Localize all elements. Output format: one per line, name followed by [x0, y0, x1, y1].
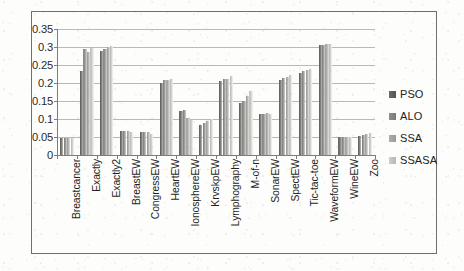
- x-axis-label: Breastcancer: [71, 159, 82, 219]
- x-axis-label: WaveformEW: [329, 159, 340, 222]
- bar-group: [77, 29, 97, 155]
- x-axis-label: KrvskpEW: [210, 159, 221, 207]
- bar: [369, 133, 372, 155]
- legend-label: SSASA: [400, 155, 437, 166]
- plot-area: [57, 29, 375, 155]
- bar-group: [117, 29, 137, 155]
- bar-group: [296, 29, 316, 155]
- y-axis-tick-mark: [54, 47, 58, 48]
- legend-swatch-icon: [389, 91, 396, 98]
- y-axis-tick-label: 0.1: [38, 114, 53, 125]
- y-axis-tick-label: 0.3: [38, 42, 53, 53]
- legend-label: PSO: [400, 89, 424, 100]
- y-axis-tick-mark: [54, 83, 58, 84]
- bar-group: [97, 29, 117, 155]
- bar-group: [156, 29, 176, 155]
- x-axis-label: BreastEW: [131, 159, 142, 205]
- bar: [289, 75, 292, 155]
- bar-group: [57, 29, 77, 155]
- bar-group: [236, 29, 256, 155]
- x-axis-label: Exactly: [91, 159, 102, 192]
- bar: [190, 120, 193, 155]
- bar-group: [256, 29, 276, 155]
- x-axis-label: M-of-n: [250, 159, 261, 188]
- y-axis-tick-label: 0: [47, 150, 53, 161]
- y-axis-tick-labels: 0.350.30.250.20.150.10.050: [8, 29, 53, 155]
- bar: [150, 134, 153, 155]
- bar-group: [216, 29, 236, 155]
- y-axis-tick-label: 0.15: [32, 96, 53, 107]
- bar: [210, 119, 213, 155]
- legend-item-pso[interactable]: PSO: [389, 88, 424, 100]
- x-axis-label: IonosphereEW: [190, 159, 201, 227]
- legend-swatch-icon: [389, 157, 396, 164]
- x-axis-label: Tic-tac-toe: [309, 159, 320, 207]
- legend-label: ALO: [400, 111, 422, 122]
- x-axis-category-labels: BreastcancerExactlyExactly2BreastEWCongr…: [57, 159, 375, 254]
- legend-item-alo[interactable]: ALO: [389, 110, 422, 122]
- y-axis-tick-label: 0.25: [32, 60, 53, 71]
- y-axis-tick-mark: [54, 101, 58, 102]
- bar: [130, 132, 133, 155]
- bar-group: [315, 29, 335, 155]
- bar: [71, 138, 74, 155]
- bar: [349, 137, 352, 155]
- legend-item-ssa[interactable]: SSA: [389, 132, 422, 144]
- bar: [329, 44, 332, 155]
- bar-group: [137, 29, 157, 155]
- x-axis-label: CongressEW: [150, 159, 161, 219]
- y-axis-tick-mark: [54, 119, 58, 120]
- x-axis-label: WineEW: [349, 159, 360, 199]
- bar: [269, 114, 272, 155]
- y-axis-tick-mark: [54, 137, 58, 138]
- legend-swatch-icon: [389, 135, 396, 142]
- x-axis-label: SonarEW: [270, 159, 281, 203]
- x-axis-label: HeartEW: [170, 159, 181, 200]
- y-axis-tick-mark: [54, 65, 58, 66]
- y-axis-tick-label: 0.05: [32, 132, 53, 143]
- y-axis-tick-mark: [54, 29, 58, 30]
- bar: [170, 79, 173, 155]
- x-axis-label: Zoo: [369, 159, 380, 177]
- bar: [90, 48, 93, 155]
- x-axis-label: Exactly2: [111, 159, 122, 197]
- legend-label: SSA: [400, 133, 422, 144]
- bar: [110, 46, 113, 155]
- y-axis-tick-label: 0.35: [32, 24, 53, 35]
- bar: [230, 76, 233, 155]
- bar-group: [276, 29, 296, 155]
- bar-group: [355, 29, 375, 155]
- bar-group: [176, 29, 196, 155]
- x-axis-label: SpectEW: [290, 159, 301, 202]
- bar: [249, 91, 252, 155]
- legend-swatch-icon: [389, 113, 396, 120]
- legend-item-ssasa[interactable]: SSASA: [389, 154, 437, 166]
- bar-group: [196, 29, 216, 155]
- bar: [309, 69, 312, 155]
- bar-group: [335, 29, 355, 155]
- chart-figure: 0.350.30.250.20.150.10.050 BreastcancerE…: [0, 0, 464, 271]
- chart-legend: PSOALOSSASSASA: [389, 88, 459, 166]
- y-axis-tick-label: 0.2: [38, 78, 53, 89]
- x-axis-label: Lymphography: [230, 159, 241, 226]
